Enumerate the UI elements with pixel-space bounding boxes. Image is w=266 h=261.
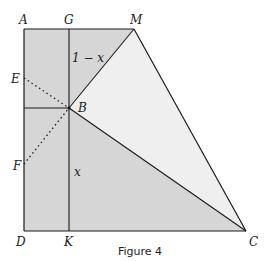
point-b-marker [67,106,70,109]
label-a: A [18,13,28,27]
geometry-figure: A G M E B F D K C 1 − x x Figure 4 [0,0,266,261]
label-d: D [15,235,26,249]
label-c: C [249,235,258,249]
label-length-bk: x [74,165,81,179]
label-e: E [10,72,20,86]
label-k: K [63,235,74,249]
label-length-gb: 1 − x [72,51,104,65]
label-f: F [12,159,22,173]
label-m: M [129,13,143,27]
figure-caption: Figure 4 [118,245,162,258]
label-g: G [64,13,74,27]
label-b: B [77,101,87,115]
